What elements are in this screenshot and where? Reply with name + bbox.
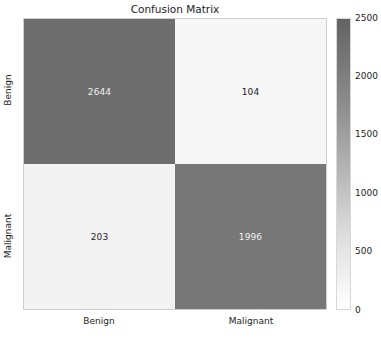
- heatmap-cell-benign-malignant[interactable]: 104: [175, 19, 326, 164]
- heatmap-cell-malignant-benign[interactable]: 203: [24, 164, 175, 309]
- y-axis-tick-malignant: Malignant: [3, 206, 13, 266]
- heatmap-cell-benign-benign[interactable]: 2644: [24, 19, 175, 164]
- colorbar-tick-label: 2000: [355, 72, 378, 81]
- heatmap-cell-value: 104: [242, 87, 259, 97]
- colorbar-tick-label: 1500: [355, 130, 378, 139]
- heatmap-cell-value: 2644: [88, 87, 111, 97]
- x-axis-tick-benign: Benign: [23, 316, 175, 326]
- colorbar-gradient: [337, 19, 350, 309]
- colorbar-tick-label: 0: [355, 306, 361, 315]
- colorbar-tick-label: 1000: [355, 189, 378, 198]
- confusion-matrix-figure: Confusion Matrix Benign Malignant 2644 1…: [0, 0, 381, 339]
- colorbar-tick-label: 500: [355, 247, 372, 256]
- colorbar: [336, 18, 351, 310]
- heatmap-grid: 2644 104 203 1996: [23, 18, 327, 310]
- heatmap-cell-value: 1996: [239, 232, 262, 242]
- x-axis-tick-malignant: Malignant: [175, 316, 327, 326]
- heatmap-cell-malignant-malignant[interactable]: 1996: [175, 164, 326, 309]
- heatmap-cell-value: 203: [91, 232, 108, 242]
- y-axis-tick-benign: Benign: [3, 60, 13, 120]
- chart-title: Confusion Matrix: [23, 2, 327, 16]
- colorbar-tick-label: 2500: [355, 14, 378, 23]
